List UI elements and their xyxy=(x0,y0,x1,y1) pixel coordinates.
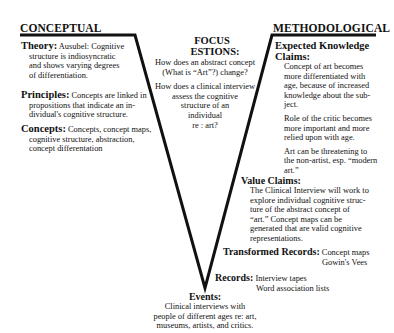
concepts-line: cognitive structure, abstraction, xyxy=(21,135,161,145)
principles-line: propositions that indicate an in- xyxy=(21,101,161,111)
conceptual-heading: CONCEPTUAL xyxy=(20,22,102,34)
theory-text: Ausubel: Cognitive xyxy=(59,42,124,51)
events-line: people of different ages re: art, xyxy=(140,312,270,322)
principles-label: Principles: xyxy=(21,89,69,100)
transformed-records-section: Transformed Records: Concept maps Gowin'… xyxy=(223,247,393,267)
knowledge-claim-line: knowledge about the sub- xyxy=(284,91,393,101)
transformed-records-line: Concept maps xyxy=(322,248,370,257)
focus-question-2: assess the cognitive xyxy=(150,92,260,102)
theory-line: and shows varying degrees xyxy=(21,61,141,71)
focus-questions-section: FOCUS ESTIONS: How does an abstract conc… xyxy=(150,36,260,130)
focus-heading-line2: ESTIONS: xyxy=(150,46,260,57)
knowledge-claims-section: Expected Knowledge Claims: Concept of ar… xyxy=(275,40,393,176)
focus-heading-line1: FOCUS xyxy=(150,36,260,46)
value-claim-line: explore individual cognitive struc- xyxy=(250,196,393,206)
value-claims-label: Value Claims: xyxy=(241,175,393,186)
knowledge-claims-label: Expected Knowledge xyxy=(275,40,393,51)
theory-line: structure is indiosyncratic xyxy=(21,52,141,62)
events-line: museums, artists, and critics. xyxy=(140,321,270,331)
value-claim-line: “art.” Concept maps can be xyxy=(250,215,393,225)
focus-question-2: structure of an xyxy=(150,101,260,111)
principles-line: dividual's cognitive structure. xyxy=(21,110,161,120)
value-claim-line: ture of the abstract concept of xyxy=(250,205,393,215)
records-label: Records: xyxy=(215,272,253,283)
theory-line: of differentiation. xyxy=(21,71,141,81)
methodological-heading: METHODOLOGICAL xyxy=(273,22,390,34)
concepts-text: Concepts, concept maps, xyxy=(68,125,151,134)
value-claims-section: Value Claims: The Clinical Interview wil… xyxy=(241,175,393,244)
value-claim-line: representations. xyxy=(250,234,393,244)
knowledge-claim-line: the non-artist, esp. “modern xyxy=(284,156,393,166)
focus-question-2: How does a clinical interview xyxy=(150,82,260,92)
principles-text: Concepts are linked in xyxy=(72,91,147,100)
events-section: Events: Clinical interviews with people … xyxy=(140,292,270,331)
knowledge-claims-label: Claims: xyxy=(275,51,393,62)
records-section: Records: Interview tapes Word associatio… xyxy=(215,273,393,293)
knowledge-claim-line: Concept of art becomes xyxy=(284,62,393,72)
transformed-records-label: Transformed Records: xyxy=(223,246,320,257)
events-line: Clinical interviews with xyxy=(140,302,270,312)
focus-question-1: How does an abstract concept xyxy=(150,58,260,68)
theory-section: Theory: Ausubel: Cognitive structure is … xyxy=(21,41,141,80)
knowledge-claim-line: age, because of increased xyxy=(284,81,393,91)
transformed-records-line: Gowin's Vees xyxy=(223,258,393,268)
principles-section: Principles: Concepts are linked in propo… xyxy=(21,90,161,120)
concepts-line: concept differentation xyxy=(21,144,161,154)
theory-label: Theory: xyxy=(21,40,57,51)
focus-question-2: individual xyxy=(150,111,260,121)
knowledge-claim-line: Art can be threatening to xyxy=(284,147,393,157)
events-label: Events: xyxy=(140,292,270,302)
knowledge-claim-line: more important and more xyxy=(284,124,393,134)
concepts-label: Concepts: xyxy=(21,123,66,134)
value-claim-line: generated that are valid cognitive xyxy=(250,224,393,234)
knowledge-claim-line: ject. xyxy=(284,100,393,110)
focus-question-1: (What is “Art”?) change? xyxy=(150,68,260,78)
knowledge-claim-line: Role of the critic becomes xyxy=(284,114,393,124)
records-line: Interview tapes xyxy=(255,274,306,283)
knowledge-claim-line: more differentiated with xyxy=(284,72,393,82)
concepts-section: Concepts: Concepts, concept maps, cognit… xyxy=(21,124,161,154)
focus-question-2: re : art? xyxy=(150,121,260,131)
value-claim-line: The Clinical Interview will work to xyxy=(250,186,393,196)
knowledge-claim-line: relied upon with age. xyxy=(284,133,393,143)
